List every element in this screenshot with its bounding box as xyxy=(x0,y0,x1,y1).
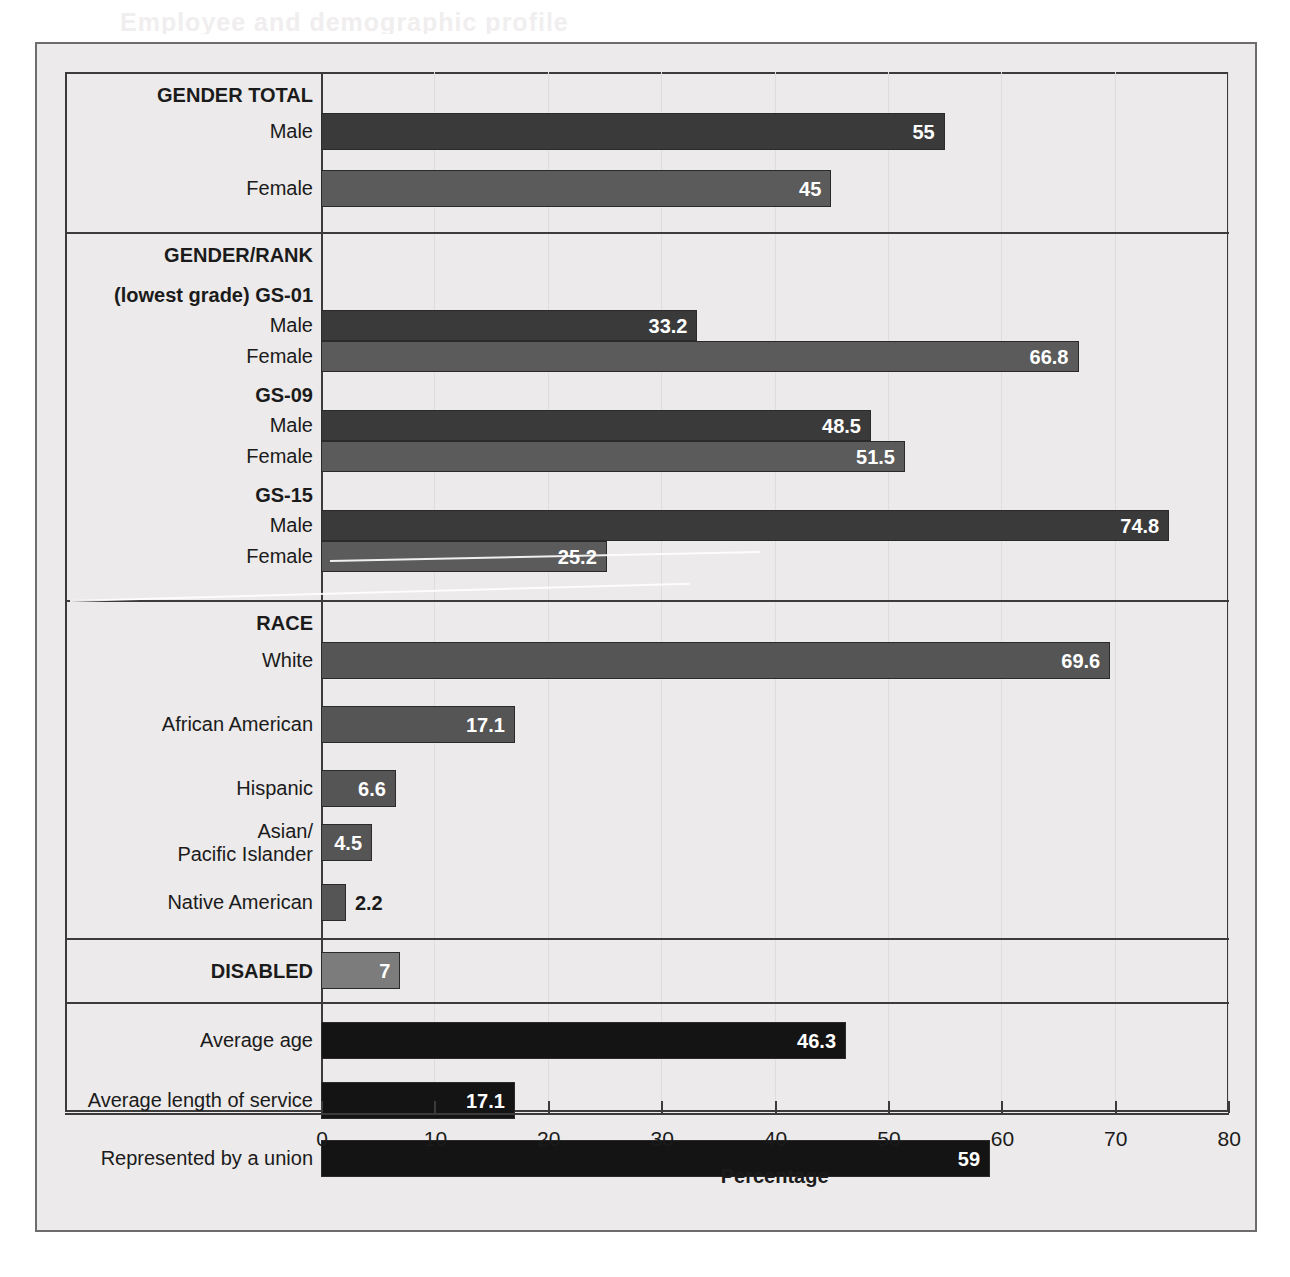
bar: 4.5 xyxy=(321,824,372,861)
bleed-through-text: Employee and demographic profile xyxy=(120,8,1020,34)
section-heading: GENDER TOTAL xyxy=(65,84,313,107)
x-axis-tick-label: 40 xyxy=(764,1127,787,1151)
x-axis-tick xyxy=(661,1101,663,1113)
section-heading: GS-09 xyxy=(65,384,313,407)
x-axis-tick-label: 50 xyxy=(877,1127,900,1151)
bar-value-label: 4.5 xyxy=(334,833,362,853)
bar-category-label: Female xyxy=(65,345,313,368)
section-heading: GS-15 xyxy=(65,484,313,507)
section-divider xyxy=(65,232,1229,234)
bar-value-label: 74.8 xyxy=(1120,516,1159,536)
bar-category-label: Average length of service xyxy=(65,1089,313,1112)
bar-value-label: 55 xyxy=(912,122,934,142)
bar: 69.6 xyxy=(321,642,1110,679)
x-axis-tick-label: 80 xyxy=(1218,1127,1241,1151)
bar-value-label: 45 xyxy=(799,179,821,199)
bar: 2.2 xyxy=(321,884,346,921)
section-heading: GENDER/RANK xyxy=(65,244,313,267)
bar-category-label: Female xyxy=(65,177,313,200)
section-heading: (lowest grade) GS-01 xyxy=(65,284,313,307)
y-axis-line xyxy=(321,72,323,1102)
bar-value-label: 46.3 xyxy=(797,1031,836,1051)
scanned-figure: Employee and demographic profile GENDER … xyxy=(0,0,1290,1277)
gridline xyxy=(1115,72,1116,1102)
section-divider xyxy=(65,1002,1229,1004)
gridline xyxy=(1228,72,1229,1102)
bar-value-label: 69.6 xyxy=(1061,651,1100,671)
x-axis-tick-label: 30 xyxy=(651,1127,674,1151)
bar-category-label: Male xyxy=(65,414,313,437)
bar-category-label: Hispanic xyxy=(65,777,313,800)
x-axis-tick xyxy=(888,1101,890,1113)
bar: 45 xyxy=(321,170,831,207)
x-axis-tick xyxy=(548,1101,550,1113)
section-heading: RACE xyxy=(65,612,313,635)
x-axis-line xyxy=(65,1113,1229,1115)
bar-value-label: 66.8 xyxy=(1030,347,1069,367)
x-axis-tick xyxy=(321,1101,323,1113)
bar-category-label: Represented by a union xyxy=(65,1147,313,1170)
x-axis-tick xyxy=(1228,1101,1230,1113)
section-divider xyxy=(65,600,1229,602)
x-axis-tick-label: 60 xyxy=(991,1127,1014,1151)
bar: 33.2 xyxy=(321,310,697,341)
bar-value-label: 6.6 xyxy=(358,779,386,799)
bar: 17.1 xyxy=(321,706,515,743)
bar-value-label: 17.1 xyxy=(466,715,505,735)
bar-value-label: 51.5 xyxy=(856,447,895,467)
gridline xyxy=(1001,72,1002,1102)
bar-value-label: 2.2 xyxy=(355,893,383,913)
x-axis-tick-label: 70 xyxy=(1104,1127,1127,1151)
bar-category-label: Native American xyxy=(65,891,313,914)
bar-category-label: Average age xyxy=(65,1029,313,1052)
bar-value-label: 48.5 xyxy=(822,416,861,436)
bar: 46.3 xyxy=(321,1022,846,1059)
bar: 51.5 xyxy=(321,441,905,472)
gridline xyxy=(888,72,889,1102)
bar: 74.8 xyxy=(321,510,1169,541)
section-heading: DISABLED xyxy=(65,960,313,983)
bar-category-label: Male xyxy=(65,514,313,537)
bar: 66.8 xyxy=(321,341,1079,372)
bar-category-label: White xyxy=(65,649,313,672)
bar-value-label: 33.2 xyxy=(649,316,688,336)
bar-category-label: Female xyxy=(65,545,313,568)
x-axis-tick-label: 0 xyxy=(316,1127,328,1151)
bar-category-label: Male xyxy=(65,314,313,337)
gridline xyxy=(661,72,662,1102)
bar-category-label: African American xyxy=(65,713,313,736)
section-divider xyxy=(65,938,1229,940)
gridline xyxy=(775,72,776,1102)
bar-value-label: 7 xyxy=(379,961,390,981)
bar: 55 xyxy=(321,113,945,150)
x-axis-tick-label: 20 xyxy=(537,1127,560,1151)
x-axis-tick-label: 10 xyxy=(424,1127,447,1151)
plot-area: GENDER TOTALGENDER/RANK(lowest grade) GS… xyxy=(65,72,1229,1112)
x-axis-title: Percentage xyxy=(721,1165,829,1188)
bar: 6.6 xyxy=(321,770,396,807)
bar-category-label: Asian/ Pacific Islander xyxy=(65,820,313,866)
bar: 7 xyxy=(321,952,400,989)
x-axis-tick xyxy=(775,1101,777,1113)
bar: 48.5 xyxy=(321,410,871,441)
x-axis-tick xyxy=(434,1101,436,1113)
bar-category-label: Female xyxy=(65,445,313,468)
x-axis-tick xyxy=(1001,1101,1003,1113)
bar-value-label: 59 xyxy=(958,1149,980,1169)
x-axis-tick xyxy=(1115,1101,1117,1113)
gridline xyxy=(434,72,435,1102)
bar-category-label: Male xyxy=(65,120,313,143)
bar-value-label: 17.1 xyxy=(466,1091,505,1111)
